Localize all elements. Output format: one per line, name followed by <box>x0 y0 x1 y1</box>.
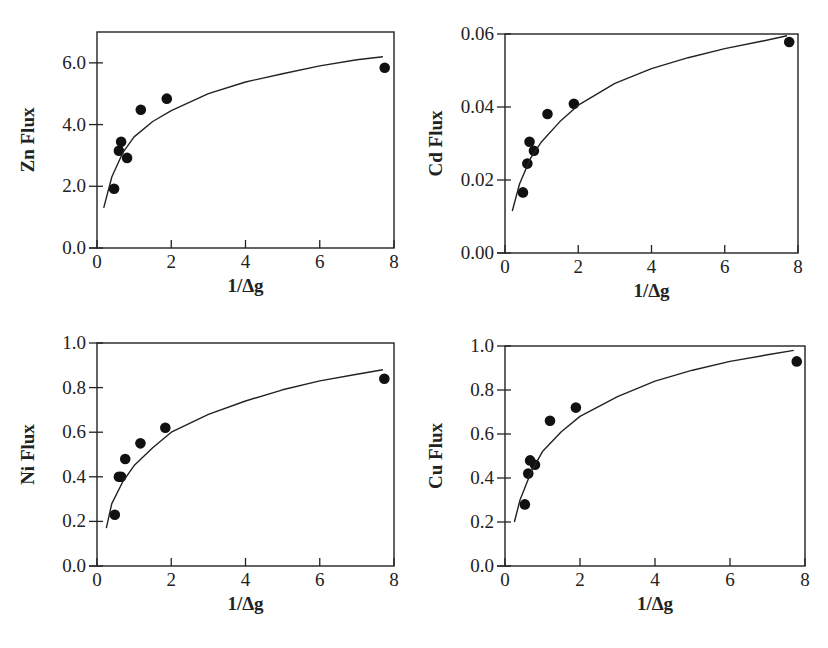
plot-frame <box>505 34 798 253</box>
y-tick-label: 0.0 <box>470 555 494 576</box>
data-point <box>518 187 529 198</box>
x-tick-label: 0 <box>92 569 102 590</box>
data-point <box>135 438 146 449</box>
y-tick-label: 1.0 <box>62 332 86 353</box>
data-point <box>542 109 553 120</box>
data-point <box>791 356 802 367</box>
fit-curve <box>514 350 793 522</box>
data-point <box>120 454 131 465</box>
y-tick-label: 0.6 <box>62 421 86 442</box>
y-axis-title: Ni Flux <box>17 424 38 485</box>
y-tick-label: 0.2 <box>470 511 494 532</box>
data-point <box>160 422 171 433</box>
y-tick-label: 0.0 <box>62 555 86 576</box>
y-tick-label: 2.0 <box>62 175 86 196</box>
data-point <box>161 93 172 104</box>
data-point <box>116 137 127 148</box>
data-point <box>784 37 795 48</box>
x-tick-label: 0 <box>500 569 510 590</box>
plot-frame <box>97 343 394 566</box>
fit-curve <box>512 36 787 211</box>
data-point <box>545 416 556 427</box>
y-tick-label: 0.8 <box>62 377 86 398</box>
x-tick-label: 2 <box>167 569 177 590</box>
y-tick-label: 0.02 <box>461 169 494 190</box>
x-tick-label: 6 <box>720 256 730 277</box>
chart-cd-flux: 024680.000.020.040.061/ΔgCd Flux <box>425 23 803 301</box>
data-point <box>520 499 531 510</box>
data-point <box>571 402 582 413</box>
x-tick-label: 8 <box>800 569 810 590</box>
fit-curve <box>106 370 383 528</box>
x-tick-label: 6 <box>315 569 325 590</box>
chart-ni-flux: 024680.00.20.40.60.81.01/ΔgNi Flux <box>17 332 399 614</box>
x-tick-label: 6 <box>315 251 325 272</box>
x-axis-title: 1/Δg <box>227 593 264 614</box>
data-point <box>524 136 535 147</box>
data-point <box>116 472 127 483</box>
x-axis-title: 1/Δg <box>637 593 674 614</box>
x-tick-label: 8 <box>793 256 803 277</box>
x-tick-label: 2 <box>574 256 584 277</box>
x-tick-label: 6 <box>725 569 735 590</box>
y-axis-title: Cd Flux <box>425 110 446 176</box>
x-tick-label: 8 <box>389 251 399 272</box>
y-tick-label: 1.0 <box>470 335 494 356</box>
x-tick-label: 4 <box>241 251 251 272</box>
x-tick-label: 4 <box>650 569 660 590</box>
x-axis-title: 1/Δg <box>633 280 670 301</box>
y-tick-label: 0.2 <box>62 510 86 531</box>
data-point <box>379 62 390 73</box>
data-point <box>122 153 133 164</box>
y-tick-label: 0.00 <box>461 242 494 263</box>
x-tick-label: 8 <box>389 569 399 590</box>
y-tick-label: 0.6 <box>470 423 494 444</box>
chart-zn-flux: 024680.02.04.06.01/ΔgZn Flux <box>17 32 399 296</box>
x-tick-label: 2 <box>167 251 177 272</box>
y-axis-title: Zn Flux <box>17 107 38 172</box>
x-tick-label: 0 <box>500 256 510 277</box>
x-tick-label: 4 <box>241 569 251 590</box>
y-tick-label: 0.4 <box>62 466 86 487</box>
data-point <box>379 373 390 384</box>
plot-frame <box>97 32 394 248</box>
chart-cu-flux: 024680.00.20.40.60.81.01/ΔgCu Flux <box>425 335 810 614</box>
x-tick-label: 0 <box>92 251 102 272</box>
data-point <box>569 98 580 109</box>
y-tick-label: 6.0 <box>62 52 86 73</box>
data-point <box>110 509 121 520</box>
y-tick-label: 0.8 <box>470 379 494 400</box>
y-axis-title: Cu Flux <box>425 423 446 489</box>
y-tick-label: 0.04 <box>461 96 495 117</box>
y-tick-label: 0.4 <box>470 467 494 488</box>
x-axis-title: 1/Δg <box>227 275 264 296</box>
y-tick-label: 0.06 <box>461 23 494 44</box>
x-tick-label: 2 <box>575 569 585 590</box>
x-tick-label: 4 <box>647 256 657 277</box>
y-tick-label: 0.0 <box>62 237 86 258</box>
fit-curve <box>104 57 383 208</box>
plot-frame <box>505 346 805 566</box>
flux-figure: 024680.02.04.06.01/ΔgZn Flux 024680.000.… <box>0 0 828 648</box>
data-point <box>136 104 147 115</box>
y-tick-label: 4.0 <box>62 114 86 135</box>
